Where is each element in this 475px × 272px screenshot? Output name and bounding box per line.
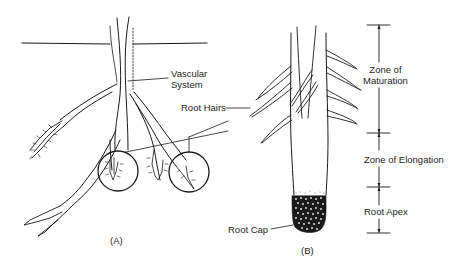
- vascular-system-label-line1: Vascular: [171, 68, 207, 79]
- root-cap-leader-line: [271, 225, 293, 229]
- root-hairs-fuzz: [30, 125, 57, 159]
- zone-maturation-label-line2: Maturation: [363, 75, 408, 86]
- lateral-root-tip: [24, 206, 66, 236]
- root-hair: [327, 67, 361, 90]
- main-root: [125, 17, 129, 150]
- root-center: [308, 26, 316, 118]
- root-hair: [256, 66, 292, 100]
- root-cap-cells: [292, 196, 326, 233]
- zone-maturation-label: Zone of Maturation: [363, 64, 408, 86]
- vascular-system-label-line2: System: [171, 79, 207, 90]
- root-cap-stipple: [296, 191, 325, 194]
- lateral-root-tip: [30, 121, 64, 158]
- magnifier-leader-line: [189, 121, 228, 137]
- root-cap-label: Root Cap: [228, 224, 268, 235]
- root-apex-label: Root Apex: [364, 206, 408, 217]
- root-hair: [327, 110, 357, 124]
- zone-elongation-label: Zone of Elongation: [364, 154, 444, 165]
- root-body: [291, 33, 294, 195]
- soil-line: [133, 43, 207, 44]
- lateral-root: [134, 92, 186, 160]
- root-body: [326, 33, 328, 195]
- root-hair: [296, 82, 318, 113]
- magnifier-circle: [169, 152, 209, 192]
- vascular-leader-line: [128, 78, 168, 81]
- soil-line: [22, 43, 110, 44]
- panel-b-caption: (B): [301, 245, 314, 256]
- vascular-system-label: Vascular System: [171, 68, 207, 90]
- panel-a-drawing: [22, 17, 228, 236]
- lateral-root: [60, 84, 117, 120]
- lateral-root: [64, 92, 112, 126]
- lateral-root: [136, 104, 160, 180]
- zone-maturation-label-line1: Zone of: [363, 64, 408, 75]
- root-hair: [326, 50, 357, 69]
- root-hairs-label: Root Hairs: [181, 102, 226, 113]
- root-hair: [261, 115, 292, 143]
- magnifier-circle: [98, 151, 138, 191]
- root-hair: [327, 90, 358, 109]
- main-root-inner: [110, 26, 117, 82]
- panel-b-drawing: [226, 25, 390, 233]
- panel-a-caption: (A): [110, 235, 123, 246]
